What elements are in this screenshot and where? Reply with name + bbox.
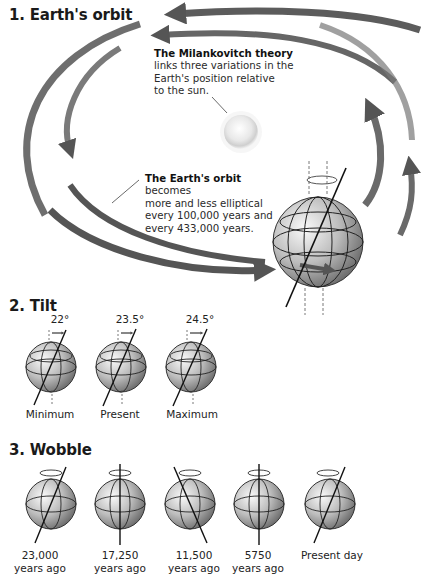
tilt-globe-maximum: [166, 329, 216, 406]
tilt-globe-minimum: [26, 330, 76, 405]
orbit-note: The Earth's orbit becomes more and less …: [145, 173, 295, 235]
sun-icon: [220, 111, 262, 153]
wobble-heading: 3. Wobble: [9, 441, 92, 459]
orbit-note-title: The Earth's orbit: [145, 173, 241, 184]
wobble-label-line: years ago: [10, 562, 70, 575]
milankovitch-line: Earth's position relative: [154, 73, 275, 84]
orbit-note-line: becomes: [145, 185, 191, 196]
wobble-globe-11500: [165, 467, 215, 543]
tilt-angle-maximum: 24.5°: [182, 313, 218, 326]
wobble-label-line: years ago: [90, 562, 150, 575]
wobble-label-line: 17,250: [90, 549, 150, 562]
tilt-label-maximum: Maximum: [160, 408, 224, 421]
milankovitch-line: links three variations in the: [154, 60, 294, 71]
orbit-note-line: every 100,000 years and: [145, 210, 273, 221]
wobble-label-present: Present day: [296, 549, 368, 562]
tilt-label-present: Present: [90, 408, 150, 421]
wobble-globe-17250: [95, 464, 145, 545]
wobble-label-5750: 5750 years ago: [228, 549, 288, 575]
orbit-note-line: more and less elliptical: [145, 198, 263, 209]
orbit-note-line: every 433,000 years.: [145, 223, 254, 234]
wobble-label-line: years ago: [228, 562, 288, 575]
wobble-globe-present: [305, 467, 355, 543]
wobble-label-line: 11,500: [164, 549, 224, 562]
tilt-angle-present: 23.5°: [112, 313, 148, 326]
wobble-label-line: 23,000: [10, 549, 70, 562]
milankovitch-title: The Milankovitch theory: [154, 48, 293, 59]
wobble-label-line: Present day: [296, 549, 368, 562]
tilt-angle-minimum: 22°: [45, 313, 75, 326]
tilt-label-minimum: Minimum: [20, 408, 80, 421]
milankovitch-note: The Milankovitch theory links three vari…: [154, 48, 304, 98]
wobble-label-11500: 11,500 years ago: [164, 549, 224, 575]
wobble-globe-23000: [26, 467, 76, 543]
wobble-label-line: years ago: [164, 562, 224, 575]
wobble-label-17250: 17,250 years ago: [90, 549, 150, 575]
tilt-globe-present: [96, 329, 146, 406]
milankovitch-line: to the sun.: [154, 85, 209, 96]
orbit-heading: 1. Earth's orbit: [9, 6, 132, 24]
tilt-globes: [26, 329, 216, 406]
wobble-globes: [26, 464, 355, 545]
wobble-label-line: 5750: [228, 549, 288, 562]
wobble-label-23000: 23,000 years ago: [10, 549, 70, 575]
wobble-globe-5750: [234, 464, 284, 545]
